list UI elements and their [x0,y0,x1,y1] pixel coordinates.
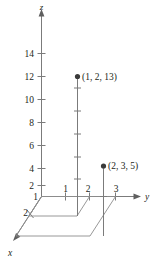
z-tick-label-4: 4 [29,164,34,174]
z-tick-label-6: 6 [29,141,34,151]
point-two-group [100,163,107,236]
plot-canvas: z 14 12 10 8 6 4 2 1 1 2 3 y 2 x (1, 2, … [0,0,159,261]
z-tick-label-14: 14 [25,49,35,59]
y-tick-label-2: 2 [86,184,91,194]
point-two-label: (2, 3, 5) [108,161,138,172]
y-axis-arrowhead [134,194,142,200]
y-tick-label-3: 3 [114,184,119,194]
z-tick-label-2: 2 [29,181,34,191]
data-point-one-marker [75,74,80,79]
z-tick-label-12: 12 [25,72,35,82]
z-tick-label-8: 8 [29,118,34,128]
y-axis-label: y [144,192,150,202]
z-tick-label-1: 1 [33,192,38,202]
z-axis-label: z [39,2,44,12]
z-axis-group [38,9,46,197]
z-tick-label-10: 10 [25,95,35,105]
y-tick-label-1: 1 [63,184,68,194]
data-point-two-marker [101,163,106,168]
3d-coordinate-plot: z 14 12 10 8 6 4 2 1 1 2 3 y 2 x (1, 2, … [0,0,159,261]
point-one-label: (1, 2, 13) [82,72,117,83]
point-one-group [74,74,81,216]
x-axis-label: x [7,248,13,258]
projection-box-point-one [29,197,90,217]
floor-projection-group [16,197,116,237]
x-tick-label-2: 2 [23,208,28,218]
